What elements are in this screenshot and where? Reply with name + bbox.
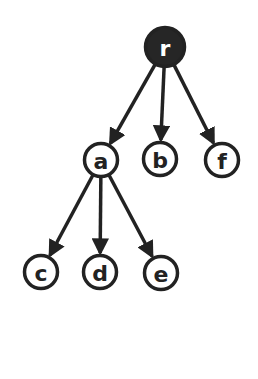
edge-a-d (100, 177, 101, 253)
edge-r-a (110, 64, 155, 143)
node-r: r (146, 28, 185, 67)
edge-r-b (161, 67, 164, 140)
node-c: c (25, 256, 58, 289)
node-label: c (34, 261, 47, 286)
node-f: f (206, 144, 239, 177)
node-label: r (160, 36, 171, 61)
node-label: f (217, 149, 227, 174)
node-label: b (152, 148, 168, 173)
node-e: e (145, 257, 178, 290)
node-d: d (84, 256, 117, 289)
edge-a-e (109, 175, 152, 256)
node-label: d (92, 261, 108, 286)
tree-diagram: rabfcde (0, 0, 258, 379)
edge-a-c (50, 175, 93, 255)
node-label: e (154, 262, 169, 287)
node-a: a (85, 144, 118, 177)
edges-layer (50, 64, 213, 256)
edge-r-f (174, 65, 213, 143)
nodes-layer: rabfcde (25, 28, 239, 290)
node-label: a (94, 149, 109, 174)
node-b: b (144, 143, 177, 176)
